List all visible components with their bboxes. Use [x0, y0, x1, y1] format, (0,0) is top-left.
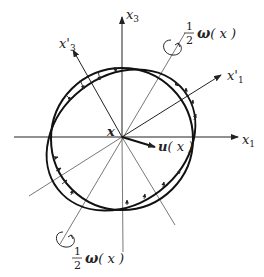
svg-text:1: 1 — [186, 20, 193, 33]
svg-text:2: 2 — [74, 259, 81, 272]
x3-prime-label: x'3 — [59, 36, 76, 53]
svg-text:1: 1 — [74, 245, 81, 258]
x1-prime-axis — [122, 75, 221, 137]
rotation-label-top: 1 2 ω( x ) — [184, 20, 236, 47]
displacement-label: u( x ) — [158, 139, 193, 154]
svg-text:2: 2 — [186, 34, 193, 47]
x1-prime-label: x'1 — [227, 68, 244, 85]
rotation-icon-top — [164, 40, 182, 55]
svg-text:ω( x ): ω( x ) — [197, 25, 236, 41]
deformation-diagram: x1 x3 x'3 x'1 x u( x ) 1 2 ω( x ) 1 2 ω(… — [0, 0, 264, 277]
x1-label: x1 — [242, 132, 255, 149]
x3-label: x3 — [126, 7, 139, 24]
svg-text:ω( x ): ω( x ) — [85, 250, 124, 266]
point-x-label: x — [106, 124, 115, 139]
rotation-label-bottom: 1 2 ω( x ) — [72, 245, 124, 272]
displacement-arrows — [54, 67, 196, 205]
